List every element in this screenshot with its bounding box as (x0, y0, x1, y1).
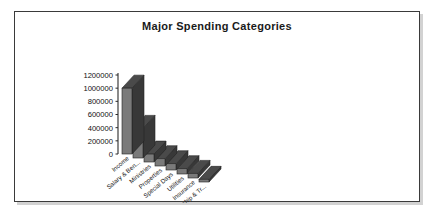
y-axis-tick-label: 0 (109, 150, 113, 159)
bar-front-face (177, 169, 187, 174)
bar-side-face (132, 75, 144, 154)
bar-front-face (122, 88, 132, 154)
y-axis-tick-label: 400000 (88, 124, 113, 133)
bar-column (122, 75, 144, 154)
y-axis-tick-labels: 020000040000060000080000010000001200000 (83, 71, 113, 159)
y-axis-tick-label: 1000000 (83, 84, 113, 93)
y-axis-tick-label: 600000 (88, 110, 113, 119)
y-axis-tick-label: 1200000 (83, 71, 113, 80)
y-axis-tick-label: 200000 (88, 137, 113, 146)
chart-frame: Major Spending Categories 02000004000006… (14, 11, 420, 202)
bar-front-face (188, 173, 198, 178)
y-axis-tick-label: 800000 (88, 97, 113, 106)
plot-area: 020000040000060000080000010000001200000 … (15, 12, 421, 203)
y-axis (116, 73, 119, 154)
bar-front-face (155, 159, 165, 166)
bar-front-face (166, 164, 176, 170)
bar-front-face (199, 179, 209, 182)
bar-chart-svg: 020000040000060000080000010000001200000 … (15, 12, 421, 203)
